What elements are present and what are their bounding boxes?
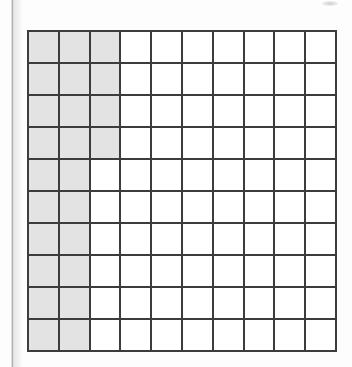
grid-cell-empty [214, 32, 245, 64]
grid-cell-empty [245, 192, 276, 224]
grid-cell-shaded [29, 320, 60, 352]
grid-cell-shaded [29, 192, 60, 224]
grid-cell-empty [214, 96, 245, 128]
grid-cell-empty [275, 224, 306, 256]
grid-cell-shaded [60, 128, 91, 160]
grid-cell-empty [121, 192, 152, 224]
grid-cell-empty [91, 224, 122, 256]
grid-cell-empty [275, 128, 306, 160]
grid-cell-empty [275, 160, 306, 192]
grid-cell-empty [121, 128, 152, 160]
grid-cell-empty [214, 224, 245, 256]
grid-cell-shaded [29, 160, 60, 192]
grid-cell-shaded [60, 256, 91, 288]
grid-cell-empty [183, 128, 214, 160]
grid-cell-empty [121, 32, 152, 64]
grid-cell-shaded [60, 64, 91, 96]
grid-cell-empty [214, 64, 245, 96]
grid-cell-empty [275, 64, 306, 96]
grid-cell-empty [121, 64, 152, 96]
grid-cell-empty [152, 256, 183, 288]
grid-cell-empty [183, 192, 214, 224]
grid-cell-empty [306, 320, 337, 352]
grid-cell-empty [121, 96, 152, 128]
grid-cell-empty [152, 288, 183, 320]
grid-cell-shaded [60, 192, 91, 224]
grid-cell-empty [245, 224, 276, 256]
grid-cell-empty [214, 288, 245, 320]
grid-cell-empty [275, 32, 306, 64]
grid-cell-empty [121, 224, 152, 256]
grid-cell-empty [275, 288, 306, 320]
page-edge-shadow [14, 0, 23, 367]
grid-cell-empty [152, 320, 183, 352]
scan-smudge-mark [322, 1, 338, 6]
grid-cell-empty [121, 160, 152, 192]
grid-cell-empty [183, 224, 214, 256]
grid-cell-shaded [60, 320, 91, 352]
grid-cell-empty [121, 320, 152, 352]
grid-cell-empty [152, 224, 183, 256]
grid-cell-empty [121, 256, 152, 288]
grid-cell-shaded [29, 224, 60, 256]
grid-cell-empty [306, 96, 337, 128]
grid-cell-empty [214, 192, 245, 224]
grid-cell-empty [275, 320, 306, 352]
grid-cell-shaded [60, 32, 91, 64]
grid-cell-empty [91, 288, 122, 320]
grid-cell-shaded [60, 288, 91, 320]
grid-cell-empty [306, 32, 337, 64]
grid-cell-shaded [60, 160, 91, 192]
grid-cell-shaded [29, 96, 60, 128]
grid-cell-empty [275, 192, 306, 224]
grid-cell-shaded [91, 64, 122, 96]
grid-cell-empty [306, 256, 337, 288]
grid-cell-empty [245, 128, 276, 160]
grid-cell-shaded [91, 128, 122, 160]
grid-cell-empty [152, 192, 183, 224]
grid-cell-empty [306, 224, 337, 256]
grid-cell-empty [306, 288, 337, 320]
grid-cell-empty [91, 256, 122, 288]
grid-cell-empty [214, 160, 245, 192]
grid-cell-empty [183, 256, 214, 288]
grid-cell-empty [152, 32, 183, 64]
scanned-page-surface [0, 0, 352, 367]
grid-cell-empty [245, 288, 276, 320]
grid-cell-empty [245, 160, 276, 192]
grid-cell-shaded [91, 96, 122, 128]
grid-cell-empty [152, 96, 183, 128]
grid-cell-shaded [91, 32, 122, 64]
grid-cell-empty [152, 128, 183, 160]
grid-cell-empty [306, 128, 337, 160]
grid-cell-empty [183, 288, 214, 320]
grid-cell-empty [214, 256, 245, 288]
grid-cell-empty [306, 64, 337, 96]
grid-cell-empty [183, 160, 214, 192]
grid-cell-empty [245, 320, 276, 352]
grid-cell-shaded [60, 224, 91, 256]
grid-cell-shaded [29, 128, 60, 160]
grid-cell-empty [245, 256, 276, 288]
grid-cell-shaded [60, 96, 91, 128]
grid-cell-empty [214, 320, 245, 352]
grid-cell-empty [91, 320, 122, 352]
grid-cell-empty [245, 96, 276, 128]
grid-cell-empty [306, 192, 337, 224]
grid-cell-empty [245, 32, 276, 64]
grid-cell-empty [275, 256, 306, 288]
grid-cell-empty [183, 64, 214, 96]
grid-cell-empty [306, 160, 337, 192]
grid-cell-shaded [29, 288, 60, 320]
grid-cell-empty [91, 192, 122, 224]
grid-cell-empty [245, 64, 276, 96]
grid-cell-empty [152, 64, 183, 96]
grid-cell-empty [183, 32, 214, 64]
grid-cell-empty [121, 288, 152, 320]
grid-cell-shaded [29, 256, 60, 288]
grid-cell-empty [183, 96, 214, 128]
grid-cell-empty [91, 160, 122, 192]
grid-cell-empty [275, 96, 306, 128]
hundred-square-grid [27, 30, 337, 352]
grid-cell-shaded [29, 32, 60, 64]
